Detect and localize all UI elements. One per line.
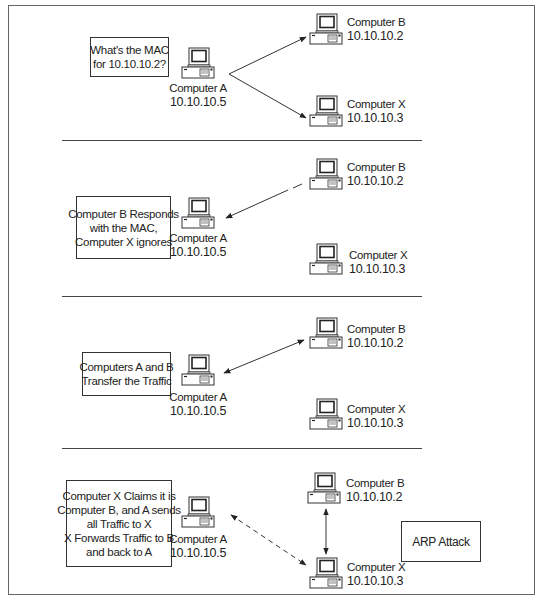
panel-separator [62,296,422,297]
computer-b-label: Computer B 10.10.10.2 [347,15,405,43]
computer-icon [309,13,343,45]
caption-box: What's the MAC for 10.10.10.2? [90,37,169,77]
caption-line: X Forwards Traffic to B [57,531,181,545]
caption-line: and back to A [57,545,181,559]
computer-a-label: Computer A 10.10.10.5 [168,390,228,418]
computer-icon [309,557,343,589]
computer-icon [309,243,343,275]
caption-line: Computer B Responds [68,207,179,221]
computer-a-label: Computer A 10.10.10.5 [168,532,228,560]
caption-box: Computer B Responds with the MAC, Comput… [76,196,171,259]
panel-separator [62,448,422,449]
computer-b-label: Computer B 10.10.10.2 [346,476,404,504]
computer-x-label: Computer X 10.10.10.3 [347,402,405,430]
computer-b-label: Computer B 10.10.10.2 [347,160,405,188]
computer-x-label: Computer X 10.10.10.3 [349,248,407,276]
caption-line: Transfer the Traffic [80,374,174,388]
computer-x-label: Computer X 10.10.10.3 [347,97,405,125]
caption-line: with the MAC, [68,221,179,235]
computer-icon [181,47,215,79]
caption-line: Computer X ignores [68,235,179,249]
arp-attack-tag: ARP Attack [401,521,481,562]
computer-b-label: Computer B 10.10.10.2 [347,322,405,350]
computer-icon [181,496,215,528]
computer-a-label: Computer A 10.10.10.5 [168,81,228,109]
caption-line: all Traffic to X [57,517,181,531]
computer-icon [309,398,343,430]
caption-line: for 10.10.10.2? [90,57,169,71]
caption-line: What's the MAC [90,43,169,57]
caption-box: Computers A and B Transfer the Traffic [82,352,171,396]
caption-line: Computer X Claims it is [57,489,181,503]
computer-icon [181,197,215,229]
caption-line: Computers A and B [80,360,174,374]
caption-line: Computer B, and A sends [57,503,181,517]
computer-a-label: Computer A 10.10.10.5 [168,231,228,259]
computer-x-label: Computer X 10.10.10.3 [347,560,405,588]
computer-icon [309,158,343,190]
panel-separator [62,140,422,141]
computer-icon [181,354,215,386]
computer-icon [307,472,341,504]
computer-icon [309,317,343,349]
computer-icon [309,95,343,127]
caption-box: Computer X Claims it is Computer B, and … [66,480,172,567]
